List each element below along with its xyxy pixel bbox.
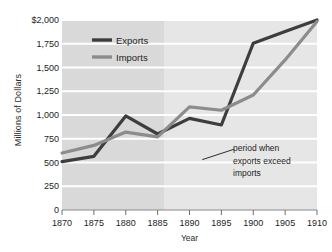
annotation-line: period when: [233, 142, 291, 155]
x-axis-title: Year: [62, 233, 317, 243]
x-axis-tick-label: 1905: [275, 218, 295, 228]
legend-label-exports: Exports: [116, 35, 148, 46]
x-axis-tick-label: 1880: [116, 218, 136, 228]
x-axis-tick-label: 1885: [148, 218, 168, 228]
x-axis-tick-label: 1910: [307, 218, 327, 228]
annotation-line: exports exceed: [233, 155, 291, 168]
annotation-line: imports: [233, 167, 291, 180]
x-axis-tick-label: 1900: [243, 218, 263, 228]
x-axis-tick-label: 1895: [211, 218, 231, 228]
x-axis-tick-label: 1870: [52, 218, 72, 228]
legend-label-imports: Imports: [116, 52, 148, 63]
annotation-exports-exceed-imports: period whenexports exceedimports: [233, 142, 291, 180]
x-axis-tick-label: 1890: [179, 218, 199, 228]
y-axis-title: Millions of Dollars: [13, 45, 23, 175]
chart-container: 02505007501,0001,2501,5001,750$2,000 187…: [0, 0, 332, 252]
x-axis-tick-labels: 187018751880188518901895190019051910: [0, 0, 332, 252]
x-axis-tick-label: 1875: [84, 218, 104, 228]
